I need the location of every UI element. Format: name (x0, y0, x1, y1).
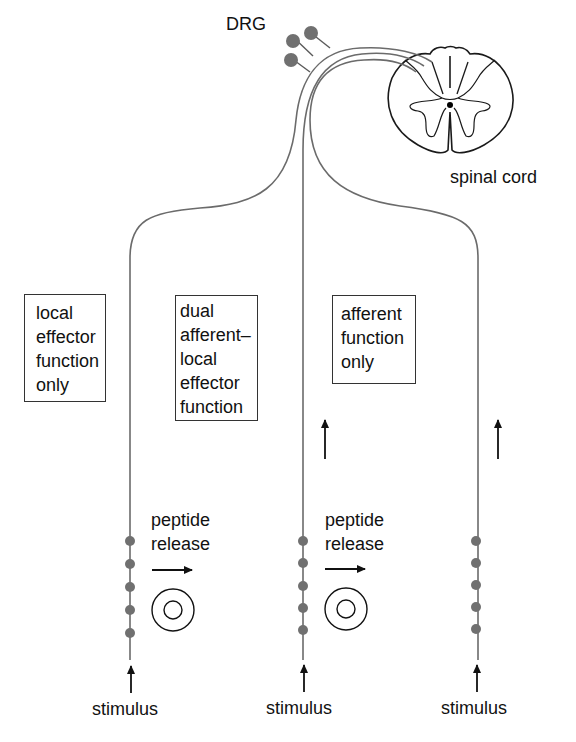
box-line: local (36, 301, 105, 325)
stimulus-label-1: stimulus (92, 697, 158, 721)
box-afferent-only: afferent function only (332, 295, 416, 384)
peptide-line: peptide (325, 508, 384, 532)
box-line: only (36, 373, 105, 397)
spinal-cord-icon (388, 47, 513, 153)
box-line: local (180, 347, 257, 371)
target-cell-icon (152, 588, 367, 631)
arrow-right-icon (152, 569, 365, 570)
drg-label: DRG (226, 12, 266, 36)
stimulus-arrow-icon (131, 665, 477, 693)
box-line: only (341, 350, 415, 374)
release-line: release (325, 532, 384, 556)
box-local-effector: local effector function only (24, 294, 106, 402)
release-line: release (151, 532, 210, 556)
box-line: function (341, 326, 415, 350)
peptide-line: peptide (151, 508, 210, 532)
stimulus-label-3: stimulus (441, 696, 507, 720)
peptide-release-label-2: peptide release (325, 508, 384, 556)
box-line: afferent (341, 302, 415, 326)
spinal-cord-label: spinal cord (450, 165, 537, 189)
stimulus-label-2: stimulus (266, 696, 332, 720)
box-line: effector (36, 325, 105, 349)
box-line: effector (180, 371, 257, 395)
arrow-up-icon (325, 420, 498, 459)
drg-cell-bodies (284, 26, 330, 72)
box-line: dual (180, 299, 257, 323)
box-dual-function: dual afferent– local effector function (175, 295, 258, 421)
peptide-release-label-1: peptide release (151, 508, 210, 556)
box-line: function (36, 349, 105, 373)
box-line: function (180, 395, 257, 419)
box-line: afferent– (180, 323, 257, 347)
